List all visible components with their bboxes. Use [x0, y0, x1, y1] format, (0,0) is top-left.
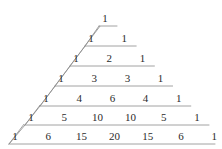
pascal-cell: 1 — [158, 73, 164, 84]
pascal-cell: 3 — [125, 73, 131, 84]
pascal-cell: 4 — [76, 93, 82, 104]
pascal-cell: 5 — [61, 112, 67, 123]
pascal-cell: 2 — [106, 53, 112, 64]
pascal-cell: 1 — [102, 13, 108, 24]
pascal-cell: 1 — [43, 93, 49, 104]
pascal-cell: 10 — [92, 112, 103, 123]
pascal-cell: 1 — [28, 112, 34, 123]
pascal-cell: 1 — [12, 131, 18, 142]
pascal-cell: 5 — [161, 112, 167, 123]
pascal-cell: 15 — [142, 131, 153, 142]
pascal-cell: 3 — [91, 73, 97, 84]
number-grid: 111121133114641151010511615201561 — [0, 0, 222, 149]
pascal-cell: 1 — [194, 112, 200, 123]
pascal-cell: 20 — [109, 131, 120, 142]
pascal-cell: 6 — [110, 93, 116, 104]
pascal-cell: 15 — [76, 131, 87, 142]
pascal-cell: 1 — [88, 33, 94, 44]
pascal-cell: 4 — [143, 93, 149, 104]
pascal-cell: 1 — [58, 73, 64, 84]
pascals-triangle-figure: 111121133114641151010511615201561 — [0, 0, 222, 149]
pascal-cell: 1 — [121, 33, 127, 44]
pascal-cell: 1 — [140, 53, 146, 64]
pascal-cell: 6 — [45, 131, 51, 142]
pascal-cell: 6 — [178, 131, 184, 142]
pascal-cell: 1 — [73, 53, 79, 64]
pascal-cell: 1 — [176, 93, 182, 104]
pascal-cell: 1 — [211, 131, 217, 142]
pascal-cell: 10 — [125, 112, 136, 123]
